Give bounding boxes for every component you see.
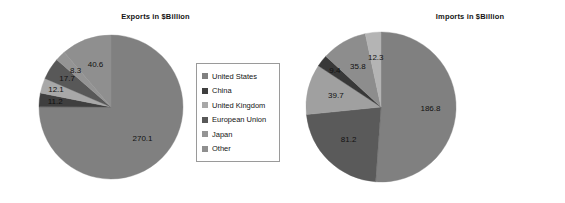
exports-legend-item[interactable]: European Union — [202, 113, 273, 128]
pie-slice-value-label: 186.8 — [420, 104, 441, 113]
legend-item-label: United States — [212, 73, 257, 81]
imports-chart-panel: Imports in $Billion 186.881.239.79.435.8… — [283, 0, 565, 203]
imports-pie: 186.881.239.79.435.812.3 — [283, 0, 565, 203]
exports-legend-item[interactable]: United States — [202, 69, 273, 84]
legend-item-label: Japan — [212, 131, 232, 139]
pie-slice-value-label: 12.1 — [48, 85, 64, 94]
pie-slice-value-label: 270.1 — [133, 134, 154, 143]
legend-color-swatch-icon — [202, 117, 208, 123]
pie-slice — [376, 32, 456, 182]
legend-item-label: China — [212, 87, 232, 95]
legend-color-swatch-icon — [202, 88, 208, 94]
exports-chart-panel: Exports in $Billion 270.111.212.117.78.3… — [0, 0, 283, 203]
exports-legend-item[interactable]: Other — [202, 142, 273, 157]
legend-color-swatch-icon — [202, 146, 208, 152]
exports-legend-item[interactable]: China — [202, 84, 273, 99]
pie-slice-value-label: 8.3 — [70, 66, 82, 75]
pie-slice-value-label: 9.4 — [329, 66, 341, 75]
exports-legend: United StatesChinaUnited KingdomEuropean… — [196, 63, 280, 162]
pie-slice-value-label: 40.6 — [88, 60, 104, 69]
pie-slice-value-label: 35.8 — [350, 62, 366, 71]
legend-color-swatch-icon — [202, 102, 208, 108]
pie-chart-figure: Exports in $Billion 270.111.212.117.78.3… — [0, 0, 565, 203]
exports-legend-item[interactable]: United Kingdom — [202, 98, 273, 113]
legend-item-label: European Union — [212, 116, 266, 124]
legend-item-label: Other — [212, 145, 231, 153]
legend-color-swatch-icon — [202, 131, 208, 137]
pie-slice-value-label: 81.2 — [341, 135, 357, 144]
legend-color-swatch-icon — [202, 73, 208, 79]
pie-slice-value-label: 11.2 — [48, 97, 64, 106]
pie-slice-value-label: 17.7 — [59, 74, 75, 83]
legend-item-label: United Kingdom — [212, 102, 265, 110]
exports-legend-item[interactable]: Japan — [202, 127, 273, 142]
pie-slice-value-label: 39.7 — [328, 91, 344, 100]
pie-slice-value-label: 12.3 — [368, 53, 384, 62]
